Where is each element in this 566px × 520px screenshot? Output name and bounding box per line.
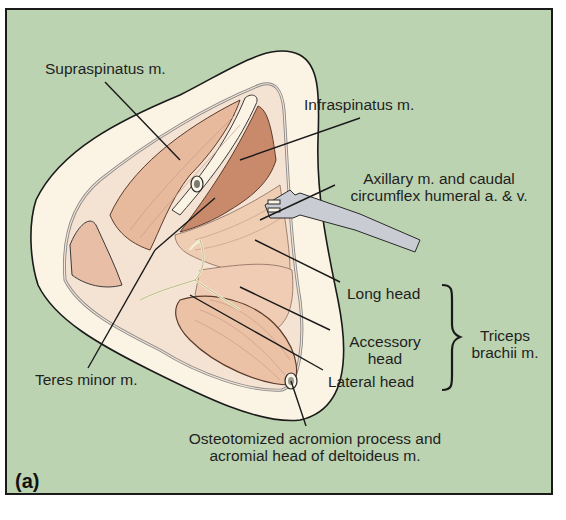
label-accessory-line1: Accessory [330,333,440,350]
label-osteotomized-line1: Osteotomized acromion process and [160,430,470,447]
label-triceps-line1: Triceps [455,327,555,344]
label-triceps: Triceps brachii m. [455,327,555,361]
label-osteotomized-line2: acromial head of deltoideus m. [160,447,470,464]
label-infraspinatus: Infraspinatus m. [304,96,414,113]
label-supraspinatus: Supraspinatus m. [45,60,166,77]
label-axillary-line2: circumflex humeral a. & v. [339,187,539,204]
label-osteotomized: Osteotomized acromion process and acromi… [160,430,470,464]
label-lateral-head: Lateral head [328,373,414,390]
panel-label: (a) [15,470,39,493]
label-teres-minor: Teres minor m. [35,371,138,388]
label-axillary: Axillary m. and caudal circumflex humera… [339,170,539,204]
label-accessory-head: Accessory head [330,333,440,367]
label-accessory-line2: head [330,350,440,367]
label-long-head: Long head [347,285,420,302]
label-axillary-line1: Axillary m. and caudal [339,170,539,187]
label-triceps-line2: brachii m. [455,344,555,361]
